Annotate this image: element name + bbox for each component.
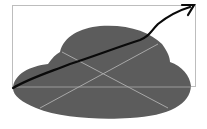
cloud-shape (13, 26, 191, 119)
trend-cloud-illustration (0, 0, 207, 129)
